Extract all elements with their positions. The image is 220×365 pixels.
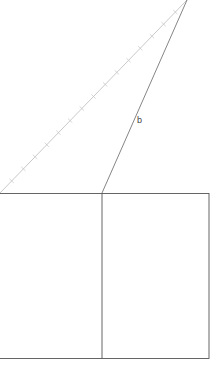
geometry-diagram: b: [0, 0, 220, 365]
side-b-label: b: [137, 115, 142, 125]
rectangle: [0, 194, 209, 359]
hatched-side: [0, 0, 187, 193]
side-b: [102, 0, 187, 193]
